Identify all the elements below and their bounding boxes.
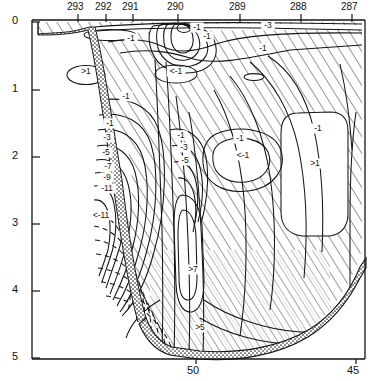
contour-label: >1 xyxy=(310,158,320,168)
depth-axis-ticks xyxy=(32,22,40,358)
contour-label: -1 xyxy=(203,31,211,41)
depth-tick-label: 1 xyxy=(12,82,18,94)
station-number-label: 287 xyxy=(341,1,358,12)
depth-tick-label: 0 xyxy=(12,14,18,26)
contour-label: -1 xyxy=(236,133,244,143)
contour-label: -7 xyxy=(104,161,112,171)
station-number-label: 291 xyxy=(122,1,139,12)
depth-tick-label: 2 xyxy=(12,149,18,161)
contour-label: -1 xyxy=(106,118,114,128)
contour-label: <-11 xyxy=(93,210,110,220)
contour-label: <-1 xyxy=(170,66,183,76)
contour-label: -1 xyxy=(314,123,322,133)
contour-label: -1 xyxy=(127,33,135,43)
depth-tick-label: 3 xyxy=(12,216,18,228)
contour-label: >1 xyxy=(81,66,91,76)
depth-tick-label: 4 xyxy=(12,283,18,295)
contour-label: -3 xyxy=(264,20,272,30)
latitude-tick-label: 45 xyxy=(347,364,359,376)
contour-section-plot: -1-3-1-1-1>1<-1-1-1-3-5-7-9-11<-11-1-3-5… xyxy=(0,0,381,381)
station-number-label: 289 xyxy=(229,1,246,12)
contour-label: >5 xyxy=(195,322,205,332)
station-number-label: 290 xyxy=(167,1,184,12)
contour-label: -5 xyxy=(102,147,110,157)
contour-label: -9 xyxy=(103,172,111,182)
contour-label: -3 xyxy=(180,142,188,152)
contour-label: <-1 xyxy=(237,150,250,160)
station-number-label: 293 xyxy=(67,1,84,12)
contour-label: -1 xyxy=(259,43,267,53)
depth-tick-label: 5 xyxy=(12,350,18,362)
contour-label: >7 xyxy=(188,264,198,274)
latitude-tick-label: 50 xyxy=(187,364,199,376)
figure-root: -1-3-1-1-1>1<-1-1-1-3-5-7-9-11<-11-1-3-5… xyxy=(0,0,381,381)
station-number-label: 288 xyxy=(290,1,307,12)
contour-label: -3 xyxy=(103,132,111,142)
contour-label: -11 xyxy=(101,183,113,193)
station-axis-ticks xyxy=(78,14,352,22)
station-number-label: 292 xyxy=(95,1,112,12)
contour-label: -1 xyxy=(193,22,201,32)
contour-label: -1 xyxy=(177,130,185,140)
contour-label: -1 xyxy=(122,91,130,101)
contour-label: -5 xyxy=(181,155,189,165)
